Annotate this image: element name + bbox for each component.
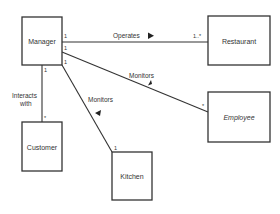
interacts-label-line2: with — [19, 100, 32, 107]
class-name-manager: Manager — [28, 38, 56, 46]
class-kitchen[interactable]: Kitchen — [112, 152, 152, 200]
class-employee[interactable]: Employee — [208, 92, 270, 142]
class-name-customer: Customer — [27, 144, 58, 151]
interacts-to-multiplicity: * — [44, 115, 47, 121]
class-name-restaurant: Restaurant — [222, 38, 256, 45]
interacts-label-line1: Interacts — [12, 92, 38, 99]
class-restaurant[interactable]: Restaurant — [208, 16, 270, 65]
class-name-kitchen: Kitchen — [120, 173, 143, 180]
monitors-employee-to-multiplicity: * — [202, 103, 205, 109]
monitors-kitchen-from-multiplicity: 1 — [64, 59, 67, 65]
monitors-employee-from-multiplicity: 1 — [64, 45, 67, 51]
monitors-kitchen-association-line — [62, 65, 112, 152]
class-manager[interactable]: Manager — [22, 17, 62, 65]
monitors-kitchen-direction-arrow-icon — [95, 110, 101, 116]
interacts-from-multiplicity: 1 — [44, 67, 47, 73]
operates-from-multiplicity: 1 — [64, 33, 67, 39]
monitors-employee-label: Monitors — [129, 72, 155, 79]
operates-to-multiplicity: 1..* — [193, 33, 202, 39]
monitors-employee-direction-arrow-icon — [148, 80, 152, 86]
operates-direction-arrow-icon — [148, 33, 154, 40]
monitors-kitchen-to-multiplicity: 1 — [114, 145, 117, 151]
operates-label: Operates — [113, 32, 140, 40]
class-name-employee: Employee — [223, 114, 254, 122]
class-customer[interactable]: Customer — [22, 122, 62, 171]
monitors-kitchen-label: Monitors — [88, 96, 114, 103]
uml-diagram: Manager Restaurant Employee Customer Kit… — [0, 0, 280, 214]
